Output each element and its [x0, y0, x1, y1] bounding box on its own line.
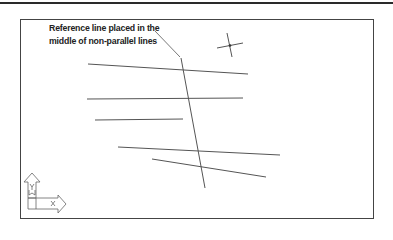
- annotation-label: Reference line placed in the middle of n…: [49, 21, 159, 47]
- line-5[interactable]: [152, 159, 266, 177]
- line-1[interactable]: [88, 64, 248, 74]
- line-2[interactable]: [87, 98, 243, 99]
- line-3[interactable]: [95, 119, 183, 120]
- crosshair-cursor-icon: [217, 33, 243, 57]
- annotation-line-1: Reference line placed in the: [49, 21, 159, 34]
- non-parallel-lines: [87, 64, 280, 177]
- viewport-frame: [21, 20, 374, 219]
- ucs-icon: [24, 173, 66, 213]
- annotation-line-2: middle of non-parallel lines: [49, 34, 159, 47]
- reference-line[interactable]: [181, 58, 205, 188]
